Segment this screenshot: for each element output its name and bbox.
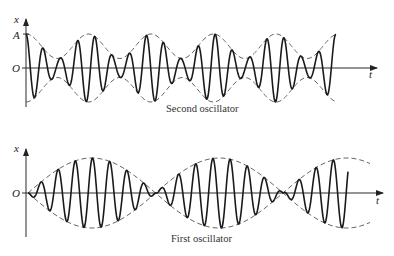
first-x-axis-label: x	[14, 143, 19, 154]
second-x-axis-label: x	[14, 14, 19, 25]
second-oscillator-plot	[22, 19, 377, 107]
second-envelope-upper	[26, 34, 336, 58]
first-oscillator-caption: First oscillator	[171, 234, 232, 245]
second-t-axis-label: t	[369, 69, 372, 80]
first-origin-label: O	[12, 188, 20, 199]
second-oscillator-caption: Second oscillator	[166, 104, 239, 115]
coupled-oscillators-figure	[0, 0, 394, 256]
first-t-axis-label: t	[376, 195, 379, 206]
second-origin-label: O	[12, 63, 20, 74]
second-amplitude-label: A	[13, 30, 20, 41]
first-oscillator-plot	[22, 149, 383, 237]
